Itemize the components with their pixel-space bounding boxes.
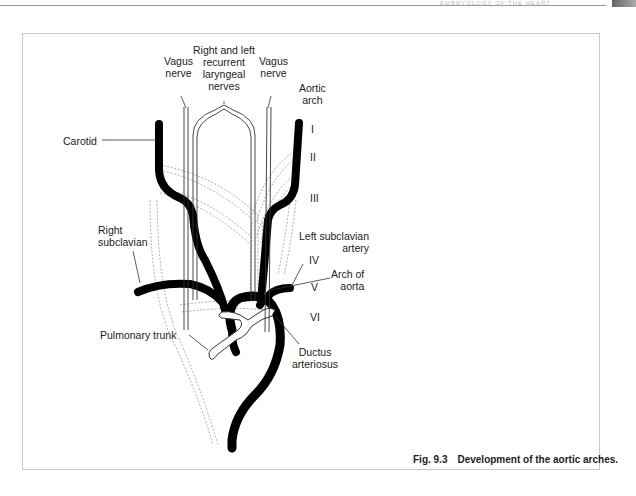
label-line: recurrent <box>193 56 255 68</box>
figure-caption: Fig. 9.3Development of the aortic arches… <box>413 454 618 465</box>
label-line: nerves <box>193 80 255 92</box>
label-arch-of-aorta: Arch of aorta <box>331 268 364 292</box>
label-vagus-nerve-right: Vagus nerve <box>259 55 288 79</box>
arch-numeral-v: V <box>311 281 318 293</box>
label-pulmonary-trunk: Pulmonary trunk <box>100 329 176 341</box>
figure-caption-text: Development of the aortic arches. <box>457 454 618 465</box>
label-vagus-nerve-left: Vagus nerve <box>164 55 193 79</box>
label-recurrent-laryngeal-nerves: Right and left recurrent laryngeal nerve… <box>193 44 255 92</box>
label-line: arch <box>299 94 326 106</box>
label-carotid: Carotid <box>63 135 97 147</box>
label-line: Arch of <box>331 268 364 280</box>
arch-numeral-vi: VI <box>310 311 320 323</box>
label-line: aorta <box>331 280 364 292</box>
label-aortic-arch: Aortic arch <box>299 82 326 106</box>
label-line: Right <box>98 224 148 236</box>
label-line: Left subclavian <box>299 230 369 242</box>
label-line: Aortic <box>299 82 326 94</box>
label-line: nerve <box>164 67 193 79</box>
arch-numeral-iv: IV <box>309 254 319 266</box>
label-line: Right and left <box>193 44 255 56</box>
label-line: artery <box>299 242 369 254</box>
label-ductus-arteriosus: Ductus arteriosus <box>292 346 338 370</box>
figure-number: Fig. 9.3 <box>413 454 447 465</box>
arch-numeral-iii: III <box>310 192 319 204</box>
label-right-subclavian: Right subclavian <box>98 224 148 248</box>
major-vessels <box>138 123 299 448</box>
label-line: Vagus <box>259 55 288 67</box>
left-carotid-vessel <box>262 123 299 290</box>
label-line: Ductus <box>292 346 338 358</box>
label-line: arteriosus <box>292 358 338 370</box>
label-line: Vagus <box>164 55 193 67</box>
label-line: subclavian <box>98 236 148 248</box>
label-line: laryngeal <box>193 68 255 80</box>
label-left-subclavian-artery: Left subclavian artery <box>299 230 369 254</box>
label-line: nerve <box>259 67 288 79</box>
arch-numeral-i: I <box>311 123 314 135</box>
right-subclavian-vessel <box>138 284 222 302</box>
arch-numeral-ii: II <box>310 151 316 163</box>
